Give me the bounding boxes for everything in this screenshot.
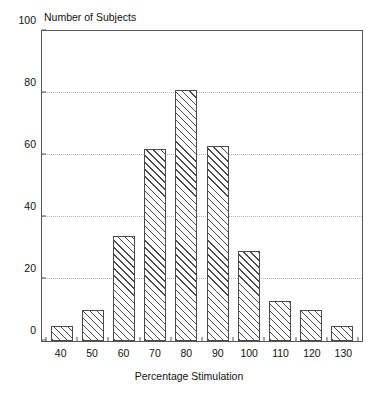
y-tick-label: 20 <box>24 263 42 274</box>
x-tick-label: 80 <box>171 346 202 362</box>
y-axis-title: Number of Subjects <box>44 11 136 23</box>
bar-slot <box>140 31 171 341</box>
bar <box>144 149 166 341</box>
bar <box>207 146 229 341</box>
bar-slot <box>327 31 358 341</box>
figure-caption <box>30 397 360 406</box>
bar-slot <box>46 31 77 341</box>
bar <box>113 236 135 341</box>
bar-slot <box>296 31 327 341</box>
x-tick-mark <box>170 337 171 341</box>
bar-series <box>42 31 362 341</box>
x-tick-label: 70 <box>139 346 170 362</box>
x-tick-mark <box>358 337 359 341</box>
x-tick-label: 60 <box>108 346 139 362</box>
bar-slot <box>233 31 264 341</box>
y-tick-label: 60 <box>24 139 42 150</box>
x-tick-label: 40 <box>45 346 76 362</box>
plot-area: 020406080100 <box>41 30 363 342</box>
x-tick-label: 100 <box>233 346 264 362</box>
bar-slot <box>171 31 202 341</box>
x-tick-mark <box>233 337 234 341</box>
bar <box>331 326 353 342</box>
y-tick-label: 80 <box>24 77 42 88</box>
x-tick-mark <box>108 337 109 341</box>
x-tick-mark <box>46 337 47 341</box>
x-tick-mark <box>77 337 78 341</box>
x-tick-mark <box>202 337 203 341</box>
bar-slot <box>202 31 233 341</box>
bar <box>175 90 197 341</box>
bar <box>300 310 322 341</box>
x-tick-label: 50 <box>76 346 107 362</box>
x-axis-title: Percentage Stimulation <box>0 370 378 382</box>
x-tick-label: 120 <box>296 346 327 362</box>
x-axis-tick-labels: 405060708090100110120130 <box>41 346 363 362</box>
x-tick-mark <box>326 337 327 341</box>
x-tick-label: 110 <box>265 346 296 362</box>
bar-slot <box>77 31 108 341</box>
x-tick-label: 130 <box>328 346 359 362</box>
y-tick-label: 40 <box>24 201 42 212</box>
x-tick-mark <box>295 337 296 341</box>
y-tick-label: 100 <box>18 15 42 26</box>
figure: Number of Subjects 020406080100 40506070… <box>0 0 378 406</box>
bar <box>82 310 104 341</box>
x-tick-mark <box>139 337 140 341</box>
y-tick-label: 0 <box>30 325 42 336</box>
bar-slot <box>108 31 139 341</box>
bar <box>269 301 291 341</box>
x-tick-mark <box>264 337 265 341</box>
bar-slot <box>264 31 295 341</box>
bar <box>51 326 73 342</box>
x-tick-label: 90 <box>202 346 233 362</box>
bar <box>238 251 260 341</box>
